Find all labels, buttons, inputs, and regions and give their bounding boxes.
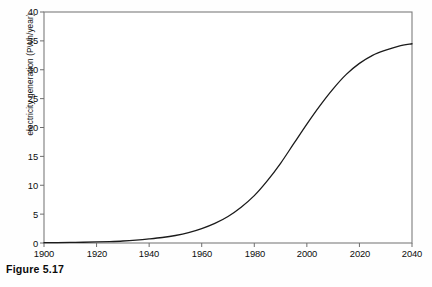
chart-canvas bbox=[0, 0, 432, 258]
plot-frame bbox=[44, 12, 412, 243]
x-axis-ticks bbox=[44, 243, 412, 247]
figure-5-17: electricity generation (PWh/year) 0 5 10… bbox=[0, 0, 432, 287]
chart-plot-area: electricity generation (PWh/year) 0 5 10… bbox=[0, 0, 432, 258]
y-axis-ticks bbox=[40, 12, 44, 243]
figure-caption: Figure 5.17 bbox=[6, 263, 64, 275]
